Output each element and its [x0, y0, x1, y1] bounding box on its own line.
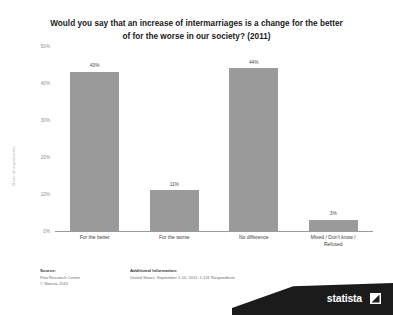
y-tick-label: 30% — [26, 118, 50, 123]
bar-slot: 44% — [214, 46, 294, 231]
bar-slot: 11% — [135, 46, 215, 231]
y-tick-label: 20% — [26, 155, 50, 160]
y-tick-label: 10% — [26, 192, 50, 197]
bar-slot: 43% — [55, 46, 135, 231]
y-tick-label: 40% — [26, 81, 50, 86]
category-label-for-the-better: For the better — [55, 234, 135, 247]
statista-logo-band: statista — [232, 283, 393, 315]
category-label-for-the-worse: For the worse — [135, 234, 215, 247]
additional-information-block: Additional Information: United States; S… — [130, 268, 280, 281]
chart-footer: Source: Pew Research Center © Statista 2… — [0, 262, 393, 315]
y-axis-ticks: 50% 40% 30% 20% 10% 0% — [26, 46, 50, 231]
category-label-mixed-dont-know-refused: Mixed / Don't know / Refused — [294, 234, 374, 247]
bar-value-label: 43% — [70, 63, 119, 68]
y-axis-title: Share of respondents — [11, 127, 16, 207]
y-tick-label: 0% — [26, 229, 50, 234]
bar-for-the-worse[interactable]: 11% — [150, 190, 199, 231]
bar-for-the-better[interactable]: 43% — [70, 72, 119, 231]
bar-slot: 3% — [294, 46, 374, 231]
chart-page: Would you say that an increase of interm… — [0, 0, 393, 315]
page-title: Would you say that an increase of interm… — [26, 18, 367, 43]
x-axis-categories: For the better For the worse No differen… — [55, 234, 373, 247]
bar-value-label: 3% — [309, 211, 358, 216]
source-heading: Source: — [40, 268, 125, 274]
logo-band-shape — [232, 283, 393, 315]
category-label-line: For the better — [57, 234, 133, 241]
additional-information-line: United States; September 1-10, 2011; 1,1… — [130, 275, 280, 281]
bar-series: 43% 11% 44% 3% — [55, 46, 373, 231]
y-tick-label: 50% — [26, 44, 50, 49]
bar-no-difference[interactable]: 44% — [229, 68, 278, 231]
source-block: Source: Pew Research Center © Statista 2… — [40, 268, 125, 286]
statista-logo-icon — [370, 293, 381, 304]
additional-information-heading: Additional Information: — [130, 268, 280, 274]
category-label-line: Mixed / Don't know / — [296, 234, 372, 241]
source-copyright: © Statista 2015 — [40, 281, 125, 287]
category-label-line: No difference — [216, 234, 292, 241]
bar-mixed-dont-know-refused[interactable]: 3% — [309, 220, 358, 231]
bar-value-label: 44% — [229, 60, 278, 65]
plot-area: Share of respondents 50% 40% 30% 20% 10%… — [0, 46, 393, 250]
x-axis-line — [55, 231, 373, 232]
category-label-no-difference: No difference — [214, 234, 294, 247]
category-label-line: For the worse — [137, 234, 213, 241]
statista-wordmark: statista — [327, 292, 362, 304]
chart-title-line-1: Would you say that an increase of interm… — [26, 18, 367, 31]
bar-value-label: 11% — [150, 182, 199, 187]
chart-title-line-2: of for the worse in our society? (2011) — [26, 31, 367, 44]
category-label-line: Refused — [296, 241, 372, 248]
